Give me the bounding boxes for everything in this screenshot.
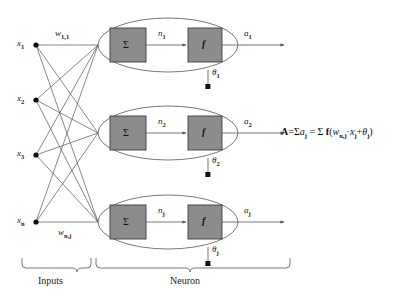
activation-symbol-1: f — [202, 39, 205, 49]
bias-node-dot-3 — [205, 261, 210, 266]
weight-label-wnj: wn,j — [58, 228, 71, 239]
net-label-nj: nj — [158, 206, 165, 217]
output-label-a1: a1 — [244, 29, 252, 40]
neuron-diagram: x1 x2 x3 xn w1,1 wn,j Σ f n1 a1 θ1 Σ f n… — [0, 0, 402, 291]
net-label-n2: n2 — [158, 117, 166, 128]
bias-node-dot-1 — [205, 84, 210, 89]
input-label-x1: x1 — [17, 39, 24, 50]
formula-weight-sub: n,j — [339, 132, 346, 139]
neuron-group-label: Neuron — [170, 275, 200, 286]
neuron-row-2 — [98, 106, 284, 177]
activation-symbol-2: f — [202, 127, 205, 137]
input-label-x3: x3 — [17, 149, 24, 160]
inputs-group-label: Inputs — [38, 275, 63, 286]
input-label-xn: xn — [17, 216, 25, 227]
connection-lines — [36, 45, 98, 222]
formula-activation-sub: j — [305, 132, 307, 139]
summary-formula: A=Σaj = Σ f(wn,j·xj+θj) — [281, 127, 373, 140]
activation-symbol-3: f — [202, 216, 205, 226]
output-label-a2: a2 — [244, 117, 252, 128]
bias-label-thetaj: θj — [212, 245, 219, 256]
bias-label-theta1: θ1 — [212, 68, 220, 79]
inputs-brace — [22, 258, 91, 272]
input-node-dot-xn — [33, 219, 38, 224]
input-node-dot-x3 — [33, 152, 38, 157]
bias-node-dot-2 — [205, 172, 210, 177]
formula-sigma-2: Σ — [318, 126, 324, 137]
input-nodes — [33, 42, 38, 224]
input-node-dot-x1 — [33, 42, 38, 47]
neuron-brace — [96, 258, 290, 272]
formula-close-paren: ) — [369, 126, 372, 137]
neuron-row-3 — [98, 195, 284, 266]
formula-eq-2: = — [309, 126, 315, 137]
sum-symbol-1: Σ — [123, 40, 129, 50]
input-label-x2: x2 — [17, 94, 24, 105]
net-label-n1: n1 — [158, 29, 166, 40]
bias-label-theta2: θ2 — [212, 156, 220, 167]
sum-symbol-2: Σ — [123, 128, 129, 138]
output-label-aj: aj — [244, 206, 251, 217]
diagram-vector-layer — [0, 0, 402, 291]
neuron-row-1 — [98, 18, 284, 89]
input-node-dot-x2 — [33, 97, 38, 102]
weight-label-w11: w1,1 — [55, 29, 69, 40]
sum-symbol-3: Σ — [123, 217, 129, 227]
group-braces — [22, 258, 290, 272]
